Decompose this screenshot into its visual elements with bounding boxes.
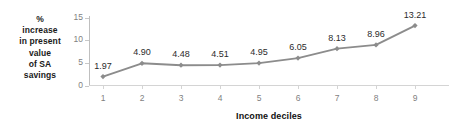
data-point-marker	[256, 60, 261, 65]
chart-container: % increase in present value of SA saving…	[0, 0, 461, 127]
x-tick-mark	[259, 86, 260, 89]
y-tick-label: 15	[61, 13, 83, 22]
data-point-label: 1.97	[83, 61, 123, 71]
x-tick-label: 4	[210, 93, 230, 103]
y-axis-title: % increase in present value of SA saving…	[8, 14, 72, 81]
x-tick-label: 1	[93, 93, 113, 103]
x-tick-label: 5	[249, 93, 269, 103]
data-point-marker	[139, 61, 144, 66]
data-point-marker	[217, 62, 222, 67]
data-point-label: 4.48	[161, 49, 201, 59]
data-point-label: 8.96	[356, 29, 396, 39]
x-tick-mark	[298, 86, 299, 89]
x-tick-label: 9	[405, 93, 425, 103]
y-tick-mark	[85, 86, 89, 87]
data-point-marker	[334, 46, 339, 51]
x-tick-label: 6	[288, 93, 308, 103]
y-axis-line	[89, 16, 90, 86]
data-point-label: 4.90	[122, 47, 162, 57]
y-tick-mark	[85, 40, 89, 41]
x-tick-mark	[376, 86, 377, 89]
data-point-marker	[178, 63, 183, 68]
y-tick-mark	[85, 18, 89, 19]
x-tick-label: 8	[366, 93, 386, 103]
data-point-label: 4.51	[200, 49, 240, 59]
y-tick-label: 10	[61, 35, 83, 44]
y-tick-label: 0	[61, 81, 83, 90]
x-tick-label: 3	[171, 93, 191, 103]
data-point-label: 6.05	[278, 42, 318, 52]
x-tick-mark	[220, 86, 221, 89]
data-point-label: 13.21	[395, 10, 435, 20]
data-point-label: 8.13	[317, 33, 357, 43]
x-tick-mark	[142, 86, 143, 89]
data-point-label: 4.95	[239, 47, 279, 57]
x-tick-mark	[337, 86, 338, 89]
x-tick-mark	[181, 86, 182, 89]
data-point-marker	[373, 42, 378, 47]
x-tick-label: 2	[132, 93, 152, 103]
data-point-marker	[412, 23, 417, 28]
y-tick-label: 5	[61, 58, 83, 67]
data-point-marker	[100, 74, 105, 79]
x-tick-mark	[103, 86, 104, 89]
x-tick-mark	[415, 86, 416, 89]
x-axis-title: Income deciles	[89, 111, 449, 121]
x-tick-label: 7	[327, 93, 347, 103]
x-axis-line	[89, 85, 449, 86]
data-point-marker	[295, 55, 300, 60]
